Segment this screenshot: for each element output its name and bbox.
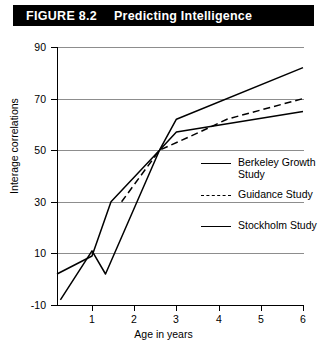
x-axis-tick-label: 3 xyxy=(166,313,186,325)
y-axis-tick-label: 70 xyxy=(18,94,46,104)
x-axis-line xyxy=(57,305,304,306)
y-axis-line xyxy=(57,47,58,306)
figure-title-bar: FIGURE 8.2 Predicting Intelligence xyxy=(13,5,314,26)
x-axis-tick-label: 4 xyxy=(209,313,229,325)
x-axis-tick-label: 1 xyxy=(82,313,102,325)
y-axis-title: Interage correlations xyxy=(8,66,20,226)
gridline xyxy=(57,47,304,48)
x-axis-title: Age in years xyxy=(0,328,327,340)
legend-item: Berkeley Growth Study xyxy=(201,157,321,180)
legend-label: Guidance Study xyxy=(238,189,321,201)
legend-item: Stockholm Study xyxy=(201,220,321,242)
legend-swatch-solid xyxy=(201,163,231,164)
y-axis-tick-label: 30 xyxy=(18,197,46,207)
gridline xyxy=(57,253,304,254)
y-axis-tick-label: 90 xyxy=(18,42,46,52)
figure-number: FIGURE 8.2 xyxy=(26,9,97,23)
legend-label: Berkeley Growth Study xyxy=(238,157,321,180)
legend-swatch-dashed xyxy=(201,195,231,196)
gridline xyxy=(57,99,304,100)
legend-swatch-solid xyxy=(201,226,231,227)
y-axis-tick-label: -10 xyxy=(18,300,46,310)
x-axis-tick-label: 5 xyxy=(251,313,271,325)
x-axis-tick-label: 6 xyxy=(293,313,313,325)
gridline xyxy=(57,150,304,151)
figure-title: Predicting Intelligence xyxy=(114,9,252,23)
y-axis-tick-label: 10 xyxy=(18,248,46,258)
y-axis-tick-label: 50 xyxy=(18,145,46,155)
x-axis-tick-label: 2 xyxy=(124,313,144,325)
chart-legend: Berkeley Growth StudyGuidance StudyStock… xyxy=(201,157,321,251)
figure-container: FIGURE 8.2 Predicting Intelligence -1010… xyxy=(0,0,327,340)
legend-item: Guidance Study xyxy=(201,189,321,211)
legend-label: Stockholm Study xyxy=(238,220,321,232)
